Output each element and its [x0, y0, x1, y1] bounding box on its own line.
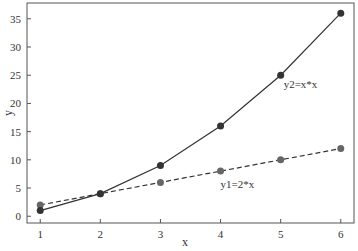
y-tick-label: 5	[16, 182, 22, 194]
y-tick-label: 0	[16, 210, 22, 222]
series-annotation: y2=x*x	[284, 78, 318, 90]
series-annotation: y1=2*x	[221, 178, 255, 190]
data-point-marker	[337, 10, 344, 17]
plot-area	[27, 3, 354, 223]
y-tick-label: 10	[10, 154, 22, 166]
y-tick-label: 15	[10, 126, 22, 138]
y-tick-label: 25	[10, 69, 22, 81]
data-point-marker	[277, 156, 284, 163]
data-point-marker	[97, 190, 104, 197]
x-tick-label: 2	[98, 228, 104, 240]
x-tick-label: 1	[37, 228, 43, 240]
x-axis-label: x	[182, 235, 188, 249]
x-tick-label: 4	[218, 228, 224, 240]
data-point-marker	[217, 168, 224, 175]
y-tick-label: 20	[10, 97, 22, 109]
x-tick-label: 3	[158, 228, 164, 240]
data-point-marker	[37, 207, 44, 214]
x-tick-label: 5	[278, 228, 284, 240]
line-chart: 05101520253035 123456 y2=x*xy1=2*x x y	[0, 0, 358, 251]
y-tick-label: 35	[10, 13, 22, 25]
y-axis-label: y	[1, 110, 15, 116]
data-point-marker	[157, 162, 164, 169]
y-tick-label: 30	[10, 41, 22, 53]
data-point-marker	[217, 122, 224, 129]
data-point-marker	[157, 179, 164, 186]
data-point-marker	[337, 145, 344, 152]
x-tick-label: 6	[338, 228, 344, 240]
